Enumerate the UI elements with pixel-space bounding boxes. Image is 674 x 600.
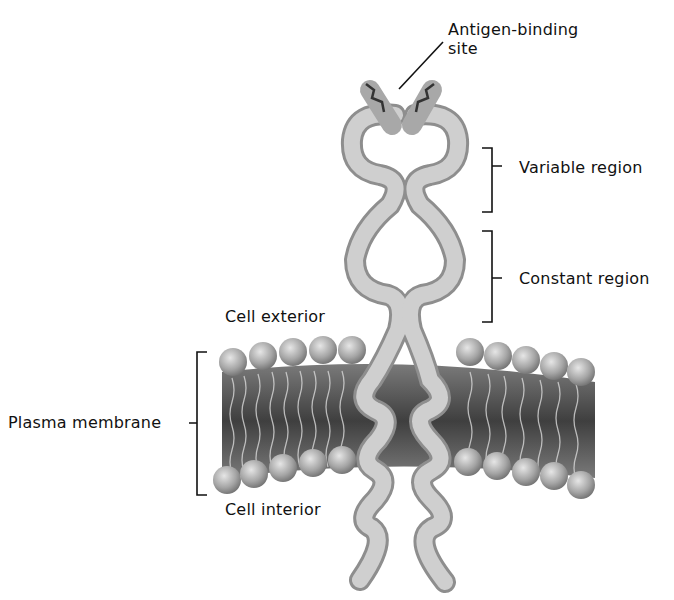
label-plasma-membrane: Plasma membrane [8,413,161,432]
constant-bracket [482,231,502,322]
membrane-bracket [189,352,207,495]
label-cell-exterior: Cell exterior [225,307,325,326]
label-variable-region: Variable region [519,158,642,177]
label-antigen-binding-site: Antigen-binding site [448,20,578,58]
label-cell-interior: Cell interior [225,500,321,519]
variable-bracket [482,148,502,212]
antibody-protein [352,90,458,582]
label-constant-region: Constant region [519,269,650,288]
label-antigen-binding-line2: site [448,39,578,58]
label-antigen-binding-line1: Antigen-binding [448,20,578,39]
antibody-diagram [0,0,674,600]
